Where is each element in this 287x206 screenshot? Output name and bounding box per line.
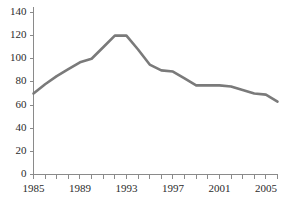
y-axis-tick-labels: 020406080100120140: [10, 5, 27, 179]
x-axis-tick-label: 1993: [115, 182, 138, 194]
line-chart: 020406080100120140 198519891993199720012…: [0, 0, 287, 206]
y-axis-tick-label: 20: [16, 144, 28, 156]
x-axis-tick-label: 2005: [255, 182, 278, 194]
x-axis-tick-label: 1997: [162, 182, 185, 194]
chart-plot-area: 020406080100120140 198519891993199720012…: [0, 0, 287, 206]
y-axis-tick-label: 60: [16, 98, 28, 110]
x-axis-tick-label: 1989: [69, 182, 92, 194]
y-axis-tick-label: 140: [10, 5, 27, 17]
x-axis-tick-labels: 198519891993199720012005: [23, 182, 278, 194]
y-axis-tick-label: 100: [10, 51, 27, 63]
y-axis-tick-label: 80: [16, 74, 28, 86]
x-axis-tick-marks: [34, 175, 278, 179]
data-series-line: [34, 36, 278, 102]
x-axis-tick-label: 1985: [23, 182, 46, 194]
y-axis-tick-label: 0: [21, 167, 27, 179]
y-axis-tick-label: 40: [16, 121, 28, 133]
x-axis-tick-label: 2001: [208, 182, 230, 194]
y-axis-tick-label: 120: [10, 28, 27, 40]
